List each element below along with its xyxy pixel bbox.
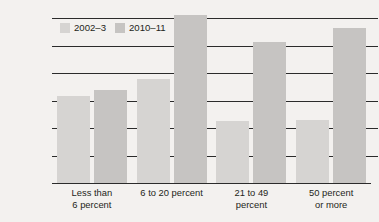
x-axis-category-label: 50 percent or more: [291, 187, 371, 210]
x-axis-category-label: Less than 6 percent: [52, 187, 132, 210]
y-axis-tick: [371, 101, 378, 102]
gridline: [52, 73, 371, 74]
legend-swatch-icon: [60, 23, 70, 33]
y-axis-tick: [371, 73, 378, 74]
bar: [57, 96, 90, 183]
bar: [137, 79, 170, 184]
bar: [296, 120, 329, 183]
x-axis-labels: Less than 6 percent6 to 20 percent21 to …: [52, 187, 371, 210]
legend-label: 2010–11: [129, 22, 166, 33]
y-axis-tick: [371, 18, 378, 19]
bar: [216, 121, 249, 183]
chart-legend: 2002–32010–11: [58, 21, 170, 34]
bar: [174, 15, 207, 183]
bar: [333, 28, 366, 183]
gridline: [52, 18, 371, 19]
y-axis-tick: [371, 46, 378, 47]
x-axis-category-label: 6 to 20 percent: [132, 187, 212, 210]
gridline: [52, 46, 371, 47]
axis-baseline: [52, 183, 371, 184]
bar: [94, 90, 127, 183]
legend-item: 2010–11: [115, 22, 166, 33]
y-axis-tick: [371, 156, 378, 157]
x-axis-category-label: 21 to 49 percent: [212, 187, 292, 210]
legend-item: 2002–3: [60, 22, 106, 33]
legend-label: 2002–3: [74, 22, 106, 33]
bar-chart: 0100,000200,000300,000400,000500,000600,…: [0, 0, 379, 222]
legend-swatch-icon: [115, 23, 125, 33]
y-axis-tick: [371, 128, 378, 129]
bar: [253, 42, 286, 183]
plot-area: [52, 10, 371, 183]
